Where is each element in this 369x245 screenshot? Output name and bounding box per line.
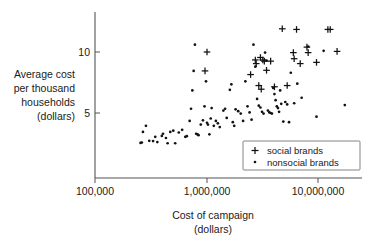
data-point-nonsocial: [286, 103, 289, 106]
data-point-nonsocial: [197, 134, 200, 137]
data-point-social: [267, 58, 274, 65]
data-point-nonsocial: [234, 108, 237, 111]
data-point-social: [290, 49, 297, 56]
data-point-social: [284, 82, 291, 89]
data-point-nonsocial: [192, 70, 195, 73]
data-point-nonsocial: [289, 71, 292, 74]
scatter-plot-figure: 10 5 100,000 1,000,000 10,000,000 Averag…: [0, 0, 369, 245]
data-point-nonsocial: [148, 139, 151, 142]
data-point-nonsocial: [169, 131, 172, 134]
x-axis-title-line1: Cost of campaign: [172, 209, 254, 221]
data-point-nonsocial: [210, 107, 213, 110]
data-point-social: [204, 49, 211, 56]
data-point-nonsocial: [230, 83, 233, 86]
data-point-social: [263, 67, 270, 74]
data-point-nonsocial: [166, 142, 169, 145]
data-point-nonsocial: [262, 112, 265, 115]
data-point-nonsocial: [215, 120, 218, 123]
data-point-nonsocial: [315, 115, 318, 118]
data-point-nonsocial: [191, 89, 194, 92]
x-tick-label-10000000: 10,000,000: [292, 185, 345, 197]
data-point-nonsocial: [145, 124, 148, 127]
data-point-nonsocial: [165, 137, 168, 140]
legend-marker-nonsocial: [254, 161, 257, 164]
legend: social brands nonsocial brands: [243, 141, 360, 170]
data-point-social: [247, 71, 254, 78]
data-point-nonsocial: [156, 141, 159, 144]
data-point-nonsocial: [205, 80, 208, 83]
data-point-nonsocial: [224, 107, 227, 110]
data-point-nonsocial: [279, 89, 282, 92]
data-point-nonsocial: [242, 120, 245, 123]
data-point-nonsocial: [225, 117, 228, 120]
data-point-nonsocial: [233, 124, 236, 127]
data-point-nonsocial: [194, 43, 197, 46]
y-axis-title-line1: Average cost: [14, 68, 75, 80]
data-point-nonsocial: [284, 101, 287, 104]
x-tick-label-1000000: 1,000,000: [184, 185, 231, 197]
y-tick-label-10: 10: [78, 46, 90, 58]
y-tick-label-5: 5: [84, 107, 90, 119]
data-point-nonsocial: [273, 93, 276, 96]
data-point-nonsocial: [181, 128, 184, 131]
data-point-nonsocial: [202, 119, 205, 122]
data-point-nonsocial: [264, 51, 267, 54]
data-point-nonsocial: [162, 132, 165, 135]
data-point-nonsocial: [296, 82, 299, 85]
data-point-nonsocial: [239, 112, 242, 115]
data-point-nonsocial: [282, 120, 285, 123]
data-point-nonsocial: [244, 80, 247, 83]
data-point-social: [313, 59, 320, 66]
data-point-nonsocial: [280, 103, 283, 106]
data-point-nonsocial: [256, 98, 259, 101]
data-point-nonsocial: [172, 129, 175, 132]
data-point-social: [297, 60, 304, 67]
data-point-nonsocial: [208, 133, 211, 136]
data-point-social: [293, 26, 300, 33]
data-point-nonsocial: [248, 111, 251, 114]
data-point-nonsocial: [142, 131, 145, 134]
data-point-nonsocial: [199, 123, 202, 126]
data-point-nonsocial: [174, 142, 177, 145]
data-point-social: [253, 60, 260, 67]
data-point-social: [202, 68, 209, 75]
data-point-social: [261, 58, 268, 65]
chart-svg: 10 5 100,000 1,000,000 10,000,000 Averag…: [0, 0, 369, 245]
data-point-nonsocial: [277, 107, 280, 110]
data-point-social: [305, 49, 312, 56]
data-point-social: [271, 83, 278, 90]
data-point-nonsocial: [288, 121, 291, 124]
y-axis-title-line4: (dollars): [37, 110, 75, 122]
data-point-nonsocial: [190, 107, 193, 110]
data-point-social: [334, 48, 341, 55]
data-point-nonsocial: [177, 131, 180, 134]
data-point-nonsocial: [278, 110, 281, 113]
data-point-nonsocial: [252, 43, 255, 46]
data-point-nonsocial: [141, 141, 144, 144]
legend-label-social: social brands: [267, 145, 323, 156]
data-point-nonsocial: [322, 49, 325, 52]
data-point-nonsocial: [203, 105, 206, 108]
data-point-nonsocial: [231, 121, 234, 124]
data-point-nonsocial: [271, 112, 274, 115]
data-markers-group: [139, 26, 346, 145]
data-point-nonsocial: [343, 104, 346, 107]
data-point-nonsocial: [246, 105, 249, 108]
data-point-nonsocial: [209, 117, 212, 120]
y-axis-title-line2: per thousand: [14, 82, 75, 94]
data-point-nonsocial: [237, 110, 240, 113]
data-point-nonsocial: [218, 126, 221, 129]
legend-label-nonsocial: nonsocial brands: [267, 157, 339, 168]
data-point-nonsocial: [152, 140, 155, 143]
data-point-nonsocial: [185, 135, 188, 138]
x-tick-label-100000: 100,000: [76, 185, 114, 197]
data-point-nonsocial: [300, 96, 303, 99]
data-point-nonsocial: [274, 99, 277, 102]
data-point-nonsocial: [207, 123, 210, 126]
data-point-nonsocial: [259, 106, 262, 109]
data-point-nonsocial: [293, 102, 296, 105]
data-point-nonsocial: [250, 118, 253, 121]
data-point-nonsocial: [154, 135, 157, 138]
data-point-nonsocial: [217, 122, 220, 125]
data-point-social: [291, 55, 298, 62]
